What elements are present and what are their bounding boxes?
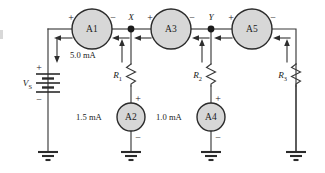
current-arrow-r1-up (119, 39, 125, 62)
ammeter-A3-plus: + (147, 12, 153, 23)
current-arrow-source-down (54, 38, 60, 63)
ammeter-A5[interactable]: A5 + − (228, 9, 276, 49)
resistor-R1: R1 (112, 64, 135, 86)
current-arrow-a3-left (134, 35, 151, 41)
resistor-R3: R3 (277, 64, 300, 86)
ammeter-A4[interactable]: A4 + − 1.0 mA (156, 93, 225, 143)
ammeter-A1-label: A1 (86, 24, 98, 34)
ammeter-A4-plus: + (215, 93, 221, 104)
ammeter-A1[interactable]: A1 + − 5.0 mA (68, 9, 116, 60)
ammeter-A3[interactable]: A3 + − (147, 9, 195, 49)
resistor-R3-label: R3 (277, 70, 287, 81)
ammeter-A4-minus: − (215, 132, 221, 143)
node-dot-Y (208, 26, 215, 33)
ammeter-A1-reading: 5.0 mA (70, 50, 97, 60)
ground-r3 (286, 152, 306, 160)
ammeter-A2-label: A2 (125, 112, 137, 122)
ammeter-A5-plus: + (228, 12, 234, 23)
current-arrow-a1-right (112, 35, 129, 41)
resistor-R1-label: R1 (112, 70, 122, 81)
ammeter-A3-label: A3 (165, 24, 177, 34)
ground-a4 (201, 152, 221, 160)
node-dot-X (128, 26, 135, 33)
edge-artifact (0, 30, 3, 39)
ammeter-A4-label: A4 (205, 112, 217, 122)
ammeter-A2-plus: + (135, 93, 141, 104)
voltage-source-battery: + − VS (23, 62, 60, 105)
node-label-X: X (127, 12, 134, 22)
current-arrow-a5-left (214, 35, 232, 41)
schematic-canvas: R1 R2 R3 + − VS (0, 0, 325, 173)
ammeter-A2-minus: − (135, 132, 141, 143)
node-label-Y: Y (208, 12, 214, 22)
ammeter-A4-reading: 1.0 mA (156, 112, 183, 122)
ammeter-A2[interactable]: A2 + − 1.5 mA (76, 93, 145, 143)
current-arrow-a3-right (192, 35, 209, 41)
source-plus-sign: + (36, 62, 42, 73)
circuit-diagram: R1 R2 R3 + − VS (0, 0, 325, 173)
ground-source (38, 152, 58, 160)
current-arrow-r3-up (284, 39, 290, 62)
current-arrow-a5-right (273, 35, 290, 41)
ammeter-A1-minus: − (110, 12, 116, 23)
resistor-R2: R2 (192, 64, 215, 86)
source-minus-sign: − (36, 94, 42, 105)
resistor-R2-label: R2 (192, 70, 202, 81)
ammeter-A1-plus: + (68, 12, 74, 23)
current-arrow-r2-up (199, 39, 205, 62)
ammeter-A5-label: A5 (246, 24, 258, 34)
ammeter-A3-minus: − (189, 12, 195, 23)
ammeter-A5-minus: − (270, 12, 276, 23)
source-label: VS (23, 78, 33, 89)
ammeter-A2-reading: 1.5 mA (76, 112, 103, 122)
wire-right-vertical (272, 29, 296, 152)
ground-a2 (121, 152, 141, 160)
